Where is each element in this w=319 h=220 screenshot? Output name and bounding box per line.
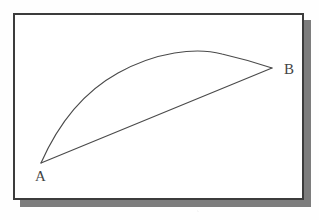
point-label-a: A	[35, 169, 46, 184]
chord-straight-path	[41, 68, 272, 163]
figure-drawing	[0, 0, 319, 220]
point-label-b: B	[284, 62, 294, 77]
diagram-canvas: A B	[0, 0, 319, 220]
arc-curve-path	[41, 51, 272, 163]
